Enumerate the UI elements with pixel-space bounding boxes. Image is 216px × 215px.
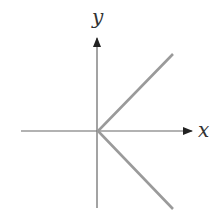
y-axis-label: y [91,5,104,29]
graph-figure: y x [0,0,216,215]
x-axis-label: x [198,118,209,142]
